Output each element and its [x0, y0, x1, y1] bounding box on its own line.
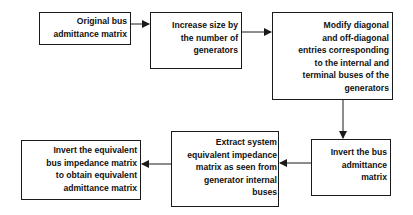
node-invert-equivalent-impedance: Invert the equivalent bus impedance matr…: [21, 140, 141, 200]
node-extract-equivalent-impedance: Extract system equivalent impedance matr…: [171, 131, 279, 207]
node-original-bus-admittance: Original bus admittance matrix: [39, 12, 131, 45]
node-modify-entries: Modify diagonal and off-diagonal entries…: [272, 12, 393, 100]
node-invert-bus-admittance: Invert the bus admittance matrix: [311, 139, 391, 196]
node-increase-size: Increase size by the number of generator…: [150, 12, 242, 69]
